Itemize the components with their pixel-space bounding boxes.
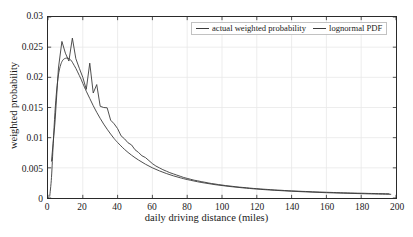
x-tick-label: 20 [77, 202, 87, 212]
legend-label-lognormal: lognormal PDF [329, 24, 382, 33]
series-line [50, 58, 391, 196]
x-tick-label: 120 [250, 202, 264, 212]
figure: weighted probability daily driving dista… [0, 0, 413, 237]
x-tick-label: 160 [320, 202, 334, 212]
y-tick-label: 0.01 [0, 133, 43, 143]
legend-entry-actual: actual weighted probability [196, 24, 306, 33]
legend-label-actual: actual weighted probability [212, 24, 306, 33]
series-line [51, 38, 389, 194]
y-tick-label: 0.015 [0, 103, 43, 113]
legend-line-icon-actual [196, 28, 209, 29]
x-tick-label: 40 [112, 202, 122, 212]
y-tick-label: 0 [0, 194, 43, 204]
y-tick-label: 0.02 [0, 72, 43, 82]
series-layer [48, 17, 396, 198]
y-tick-label: 0.025 [0, 42, 43, 52]
x-tick-label: 140 [285, 202, 299, 212]
legend-line-icon-lognormal [313, 28, 326, 29]
x-axis-label: daily driving distance (miles) [0, 212, 413, 223]
x-tick-label: 0 [45, 202, 50, 212]
x-tick-label: 60 [147, 202, 157, 212]
legend: actual weighted probability lognormal PD… [191, 22, 387, 35]
legend-entry-lognormal: lognormal PDF [313, 24, 382, 33]
x-tick-label: 200 [390, 202, 404, 212]
y-tick-label: 0.03 [0, 11, 43, 21]
x-tick-label: 100 [215, 202, 229, 212]
y-tick-label: 0.005 [0, 164, 43, 174]
x-tick-label: 180 [355, 202, 369, 212]
plot-area [47, 16, 397, 199]
x-tick-label: 80 [182, 202, 192, 212]
